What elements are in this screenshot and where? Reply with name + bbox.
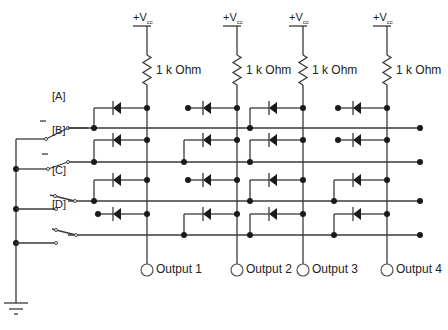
switch-contact-icon [75,234,78,237]
row-junction-dot [331,198,337,204]
diode-cell [95,207,150,221]
vcc-label: +Vcc [133,11,153,25]
row-junction-dot [247,159,253,165]
row-label: [A] [52,90,65,102]
open-end-dot [335,137,341,143]
column-junction-dot [384,177,390,183]
resistor-icon [299,55,307,85]
diode-icon [203,102,211,114]
diode-icon [203,208,211,220]
vcc-label: +Vcc [223,11,243,25]
diode-matrix-diagram [0,0,448,330]
column-junction-dot [144,211,150,217]
column-junction-dot [384,137,390,143]
diode-icon [269,134,277,146]
diode-icon [353,174,361,186]
diode-cell [331,207,390,238]
vcc-label: +Vcc [289,11,309,25]
output-label: Output 2 [246,262,292,276]
diode-icon [269,174,277,186]
row-junction-dot [331,232,337,238]
row-junction-dot [247,232,253,238]
row-junction-dot [247,198,253,204]
row-terminal-dot [417,198,423,204]
column-junction-dot [384,105,390,111]
diode-icon [113,134,121,146]
diode-cell [335,101,390,115]
row-junction-dot [181,232,187,238]
output-label: Output 1 [156,262,202,276]
row-junction-dot [91,125,97,131]
diode-cell [91,133,150,165]
switch-contact-icon [45,138,48,141]
diode-icon [113,174,121,186]
diode-cell [181,207,240,238]
diode-cell [247,133,306,165]
output-column-3 [289,26,309,276]
column-junction-dot [300,211,306,217]
row-junction-dot [91,159,97,165]
switch-network [4,121,88,314]
open-end-dot [335,105,341,111]
resistor-label: 1 k Ohm [156,63,201,77]
output-terminal-icon [141,264,153,276]
row-junction-dot [247,125,253,131]
diode-cell [335,133,390,147]
diode-icon [269,102,277,114]
resistor-icon [383,55,391,85]
diode-cell [185,173,240,187]
column-junction-dot [234,105,240,111]
row-label: [C] [52,164,66,176]
diode-cell [185,101,240,115]
diode-cell [247,101,306,131]
diode-icon [353,208,361,220]
row-c [68,198,423,204]
switch-contact-icon [74,200,77,203]
row-b [68,159,423,165]
diode-icon [203,174,211,186]
resistor-icon [143,55,151,85]
diode-cell [91,173,150,204]
vcc-label: +Vcc [373,11,393,25]
output-terminal-icon [297,264,309,276]
open-end-dot [185,105,191,111]
diode-icon [353,102,361,114]
column-junction-dot [144,177,150,183]
column-junction-dot [300,137,306,143]
column-junction-dot [144,105,150,111]
column-junction-dot [234,137,240,143]
diode-icon [113,208,121,220]
diode-icon [353,134,361,146]
output-terminal-icon [381,264,393,276]
row-terminal-dot [417,232,423,238]
output-column-1 [133,26,153,276]
resistor-icon [233,55,241,85]
switch-contact-icon [55,229,58,232]
resistor-label: 1 k Ohm [396,63,441,77]
row-d [68,232,423,238]
diode-cell [331,173,390,204]
row-junction-dot [181,159,187,165]
output-column-2 [223,26,243,276]
column-junction-dot [144,137,150,143]
row-terminal-dot [417,125,423,131]
diode-icon [203,134,211,146]
row-terminal-dot [417,159,423,165]
column-junction-dot [300,177,306,183]
row-a [68,125,423,131]
output-label: Output 3 [312,262,358,276]
diode-cell [247,207,306,238]
switch-contact-icon [47,168,50,171]
row-label: [B] [52,124,65,136]
diode-icon [269,208,277,220]
diode-icon [113,102,121,114]
switch-contact-icon [55,242,58,245]
column-junction-dot [384,211,390,217]
row-label: [D] [52,198,66,210]
open-end-dot [185,177,191,183]
column-junction-dot [300,105,306,111]
switch-contact-icon [67,161,70,164]
column-junction-dot [234,211,240,217]
resistor-label: 1 k Ohm [312,63,357,77]
open-end-dot [95,211,101,217]
